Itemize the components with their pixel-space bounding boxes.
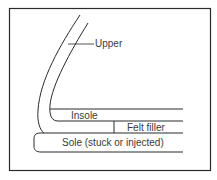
shoe-cross-section-diagram [0, 0, 217, 180]
felt-filler-label: Felt filler [127, 123, 165, 133]
insole-label: Insole [71, 111, 98, 121]
upper-label: Upper [95, 39, 122, 49]
upper-inner-line [50, 23, 88, 121]
sole-label: Sole (stuck or injected) [62, 138, 164, 148]
